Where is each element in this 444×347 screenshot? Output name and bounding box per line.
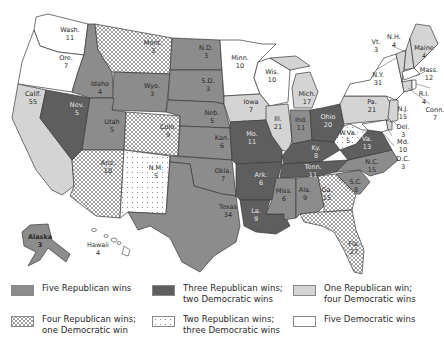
legend-label: Four Republican wins; one Democratic win	[42, 314, 136, 336]
state-arizona	[70, 150, 124, 218]
swatch-four-rep	[11, 316, 34, 327]
label-va: Va.13	[362, 135, 372, 151]
legend-label: Two Republican wins; three Democratic wi…	[183, 314, 280, 336]
label-dc: D.C.3	[396, 155, 410, 171]
label-md: Md.10	[397, 138, 409, 154]
legend-label: Five Republican wins	[42, 283, 131, 294]
state-new-jersey	[388, 100, 398, 122]
label-hawaii: Hawaii4	[87, 241, 109, 257]
swatch-five-dem	[293, 316, 316, 327]
state-pennsylvania	[340, 96, 392, 124]
legend-item-five-dem: Five Democratic wins	[293, 314, 415, 327]
swatch-two-rep	[152, 316, 175, 327]
label-del: Del.3	[397, 123, 410, 139]
label-pa: Pa.21	[367, 98, 377, 114]
state-north-dakota	[170, 38, 222, 70]
label-nh: N.H.4	[387, 33, 401, 49]
state-south-dakota	[168, 70, 224, 104]
label-ny: N.Y.31	[372, 71, 384, 87]
legend-label: One Republican win; four Democratic wins	[324, 283, 416, 305]
state-wyoming	[112, 72, 170, 112]
legend-item-three-rep: Three Republican wins; two Democratic wi…	[152, 283, 283, 305]
label-ga: Ga.15	[321, 186, 332, 202]
label-conn: Conn.7	[426, 106, 444, 122]
label-nj: N.J.15	[398, 105, 409, 121]
state-alaska	[22, 224, 70, 266]
label-ri: R.I.4	[419, 90, 429, 106]
legend-item-one-rep: One Republican win; four Democratic wins	[293, 283, 416, 305]
legend-item-four-rep: Four Republican wins; one Democratic win	[11, 314, 136, 336]
legend-label: Five Democratic wins	[324, 314, 415, 325]
state-colorado	[124, 112, 180, 156]
label-mo: Mo.11	[246, 130, 258, 146]
label-ill: Ill.21	[274, 115, 282, 131]
legend-item-five-rep: Five Republican wins	[11, 283, 131, 296]
label-fla: Fla.27	[348, 240, 360, 256]
swatch-one-rep	[293, 285, 316, 296]
state-new-mexico	[120, 150, 170, 218]
label-vt: Vt.3	[371, 38, 380, 54]
map-legend: Five Republican wins Three Republican wi…	[0, 276, 444, 347]
legend-label: Three Republican wins; two Democratic wi…	[183, 283, 283, 305]
legend-item-two-rep: Two Republican wins; three Democratic wi…	[152, 314, 280, 336]
swatch-three-rep	[152, 285, 175, 296]
label-mass: Mass.12	[420, 66, 438, 82]
state-rhode-island	[412, 80, 416, 90]
swatch-five-rep	[11, 285, 34, 296]
us-electoral-map: Wash.11 Ore.7 Calif.55 Nev.5 Idaho4 Mont…	[0, 0, 444, 276]
state-connecticut	[402, 80, 412, 92]
